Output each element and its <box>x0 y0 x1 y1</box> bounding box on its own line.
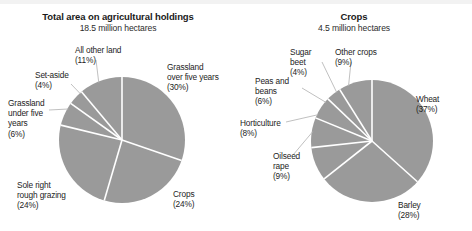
slice-label-grassland-under-five: Grassland under five years (6%) <box>8 98 66 139</box>
slice-label-crops: Crops (24%) <box>173 189 229 209</box>
slice-label-peas-and-beans: Peas and beans (6%) <box>255 76 309 107</box>
slice-label-oilseed-rape: Oilseed rape (9%) <box>273 151 321 182</box>
chart-panel-total-area: Total area on agricultural holdings 18.5… <box>0 0 236 231</box>
slice-label-grassland-over-five: Grassland over five years (30%) <box>167 62 233 93</box>
slice-label-set-aside: Set-aside (4%) <box>35 70 91 90</box>
slice-label-all-other-land: All other land (11%) <box>75 45 149 65</box>
figure-root: Total area on agricultural holdings 18.5… <box>0 0 472 231</box>
slice-label-other-crops: Other crops (9%) <box>335 47 405 67</box>
slice-label-sugar-beet: Sugar beet (4%) <box>290 47 328 78</box>
slice-label-horticulture: Horticulture (8%) <box>240 118 304 138</box>
slice-label-barley: Barley (28%) <box>398 200 452 220</box>
slice-label-wheat: Wheat (37%) <box>416 94 468 114</box>
slice-label-sole-right-rough-grazing: Sole right rough grazing (24%) <box>17 180 101 211</box>
chart-panel-crops: Crops 4.5 million hectares Wheat (37%) B… <box>236 0 472 231</box>
pie-chart-crops <box>236 0 472 231</box>
